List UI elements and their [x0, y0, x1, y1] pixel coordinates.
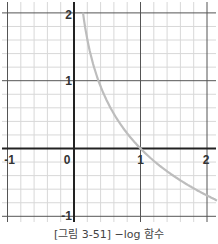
x-tick-label: 0 [64, 153, 71, 167]
x-tick-label: -1 [4, 153, 15, 167]
x-tick-label: 1 [137, 153, 144, 167]
x-tick-label: 2 [203, 153, 210, 167]
neg-log-curve [83, 13, 217, 201]
figure-caption: [그림 3-51] −log 함수 [0, 225, 218, 241]
log-chart: -1012-112 [0, 0, 218, 224]
minor-grid [2, 2, 216, 222]
y-tick-label: -1 [61, 209, 72, 223]
y-tick-label: 1 [65, 74, 72, 88]
y-tick-label: 2 [65, 8, 72, 22]
